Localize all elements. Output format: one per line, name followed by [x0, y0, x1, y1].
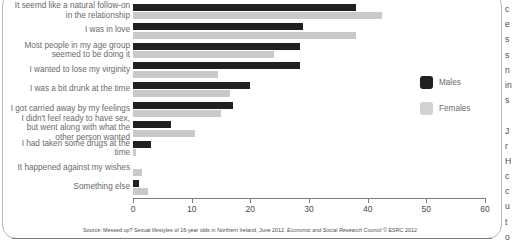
x-tick-label-60: 60: [480, 204, 489, 214]
bar-females[interactable]: [133, 188, 148, 195]
source-divider: [12, 238, 492, 239]
body-text-line: s: [505, 48, 518, 63]
body-text-line: c: [505, 184, 518, 199]
bar-females[interactable]: [133, 110, 221, 117]
adjacent-body-text-column: cessninsJrHccuto: [505, 2, 518, 250]
x-tick-label-40: 40: [363, 204, 372, 214]
x-tick-label-0: 0: [131, 204, 136, 214]
category-axis-labels: It seemd like a natural follow-on in the…: [8, 2, 130, 198]
x-tick-50: [426, 198, 427, 203]
bar-males[interactable]: [133, 23, 303, 30]
category-label: I was in love: [8, 25, 130, 35]
x-tick-label-20: 20: [246, 204, 255, 214]
body-text-line: H: [505, 154, 518, 169]
body-text-line: t: [505, 215, 518, 230]
x-tick-label-30: 30: [304, 204, 313, 214]
bar-females[interactable]: [133, 90, 230, 97]
legend-item-males[interactable]: Males: [420, 76, 470, 89]
source-note-suffix: © ESRC 2012: [382, 227, 417, 233]
category-label: It seemd like a natural follow-on in the…: [8, 1, 130, 20]
bar-males[interactable]: [133, 141, 151, 148]
bar-males[interactable]: [133, 180, 139, 187]
legend-label-females: Females: [439, 104, 470, 113]
category-label: I wanted to lose my virginity: [8, 65, 130, 75]
category-label: I had taken some drugs at the time: [8, 139, 130, 158]
x-tick-0: [133, 198, 134, 203]
bar-males[interactable]: [133, 82, 250, 89]
bar-group-row: [133, 2, 485, 22]
body-text-line: s: [505, 93, 518, 108]
bar-females[interactable]: [133, 32, 356, 39]
bar-males[interactable]: [133, 62, 300, 69]
x-tick-label-50: 50: [422, 204, 431, 214]
bar-group-row: [133, 159, 485, 179]
bar-group-row: [133, 41, 485, 61]
bar-males[interactable]: [133, 102, 233, 109]
x-tick-40: [368, 198, 369, 203]
source-note: Source: Messed up? Sexual lifestyles of …: [0, 227, 500, 233]
category-label: Most people in my age group seemed to be…: [8, 41, 130, 60]
source-note-prefix: Source: Messed up? Sexual lifestyles of …: [83, 227, 287, 233]
x-tick-30: [309, 198, 310, 203]
bar-females[interactable]: [133, 130, 195, 137]
category-label: I was a bit drunk at the time: [8, 84, 130, 94]
legend-label-males: Males: [439, 78, 461, 87]
bar-group-row: [133, 178, 485, 198]
body-text-line: u: [505, 199, 518, 214]
body-text-line: c: [505, 169, 518, 184]
chart-legend: Males Females: [420, 76, 470, 128]
legend-item-females[interactable]: Females: [420, 102, 470, 115]
category-label: It happened against my wishes: [8, 163, 130, 173]
bar-females[interactable]: [133, 71, 218, 78]
legend-swatch-females-icon: [420, 102, 433, 115]
bar-females[interactable]: [133, 12, 382, 19]
body-text-line: s: [505, 32, 518, 47]
bar-group-row: [133, 22, 485, 42]
bar-males[interactable]: [133, 4, 356, 11]
x-tick-label-10: 10: [187, 204, 196, 214]
body-text-line: J: [505, 124, 518, 139]
chart-page: It seemd like a natural follow-on in the…: [0, 0, 518, 251]
body-text-line: o: [505, 230, 518, 245]
body-text-line: c: [505, 2, 518, 17]
category-label: I got carried away by my feelings: [8, 104, 130, 114]
body-text-line: n: [505, 63, 518, 78]
source-note-publisher: Economic and Social Research Council: [287, 227, 381, 233]
legend-swatch-males-icon: [420, 76, 433, 89]
body-text-line: in: [505, 78, 518, 93]
bar-females[interactable]: [133, 51, 274, 58]
category-label: Something else: [8, 182, 130, 192]
x-tick-60: [485, 198, 486, 203]
bar-males[interactable]: [133, 121, 171, 128]
bar-group-row: [133, 139, 485, 159]
bar-females[interactable]: [133, 169, 142, 176]
x-tick-20: [250, 198, 251, 203]
bar-males[interactable]: [133, 43, 300, 50]
x-tick-10: [192, 198, 193, 203]
body-text-line: [505, 108, 518, 123]
body-text-line: e: [505, 17, 518, 32]
body-text-line: r: [505, 139, 518, 154]
bar-females[interactable]: [133, 149, 136, 156]
